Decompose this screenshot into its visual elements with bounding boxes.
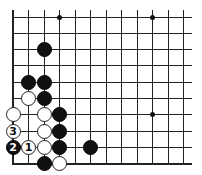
black-stone: [37, 91, 52, 106]
black-stone: [37, 156, 52, 171]
white-stone: [37, 140, 52, 155]
grid-line-horizontal: [13, 33, 192, 34]
go-board-diagram: 321: [0, 0, 202, 175]
black-stone: [52, 107, 67, 122]
grid-line-horizontal: [13, 17, 192, 18]
black-stone: [52, 140, 67, 155]
white-stone: [37, 124, 52, 139]
star-point: [150, 15, 155, 20]
white-stone-move-1: 1: [21, 140, 36, 155]
white-stone-move-3: 3: [6, 124, 21, 139]
white-stone: [6, 107, 21, 122]
black-stone: [83, 140, 98, 155]
star-point: [150, 112, 155, 117]
star-point: [57, 15, 62, 20]
black-stone: [21, 75, 36, 90]
white-stone: [21, 91, 36, 106]
grid-line-horizontal: [13, 65, 192, 66]
black-stone: [37, 75, 52, 90]
black-stone-move-2: 2: [6, 140, 21, 155]
black-stone: [52, 124, 67, 139]
black-stone: [37, 42, 52, 57]
white-stone: [37, 107, 52, 122]
white-stone: [52, 156, 67, 171]
